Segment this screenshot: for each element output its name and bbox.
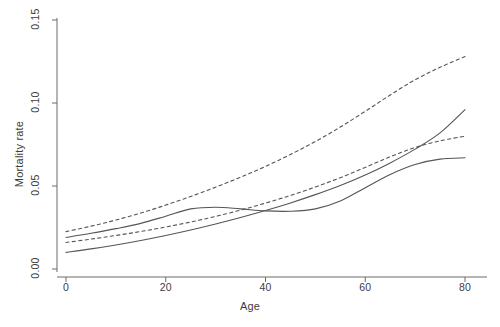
y-axis-label: Mortality rate [13, 99, 25, 209]
plot-canvas [0, 0, 500, 327]
x-tick-label: 40 [259, 281, 271, 293]
x-tick-label: 0 [63, 281, 69, 293]
y-tick-label: 0.10 [29, 85, 41, 119]
x-axis-label: Age [0, 300, 500, 312]
x-tick-label: 80 [459, 281, 471, 293]
series-nonparametric-smooth [66, 158, 465, 238]
axis-ticks [52, 20, 465, 282]
x-tick-label: 20 [160, 281, 172, 293]
axis-lines [57, 18, 487, 277]
mortality-rate-chart: Age Mortality rate 020406080 0.000.050.1… [0, 0, 500, 327]
x-tick-label: 60 [359, 281, 371, 293]
series-upper-confidence-band [66, 57, 465, 232]
y-tick-label: 0.05 [29, 168, 41, 202]
y-tick-label: 0.00 [29, 251, 41, 285]
y-tick-label: 0.15 [29, 2, 41, 36]
series-parametric-fit [66, 110, 465, 253]
data-series-group [66, 57, 465, 253]
